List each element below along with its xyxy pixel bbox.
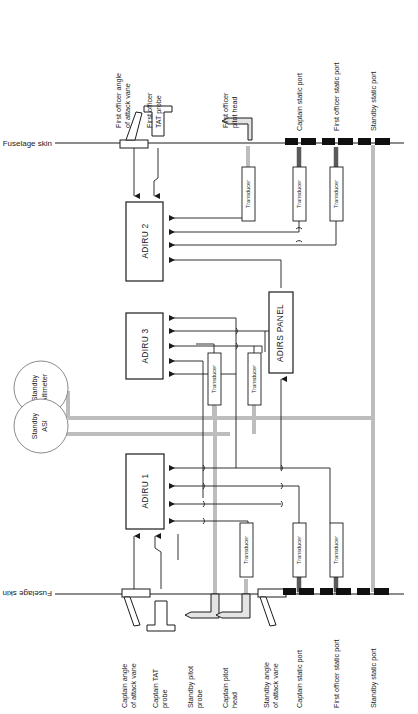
standby-static-port-top-label: Standby static port [369, 71, 378, 131]
unit-adiru3-label: ADIRU 3 [140, 328, 150, 363]
transducer-fo-static-top-label: Transducer [333, 180, 339, 208]
transducer-fo-static-bottom-label: Transducer [333, 536, 339, 564]
capt-tat-probe-label-line2: probe [160, 690, 169, 708]
standby-asi-label-line1: Standby [30, 412, 39, 439]
capt-static-port-top-left-pad [285, 138, 298, 145]
standby-static-port-bottom-label: Standby static port [369, 648, 378, 708]
transducer-mid-left-label: Transducer [211, 365, 217, 393]
fo-pitot-head-label-line2: pitot head [230, 96, 239, 128]
transducer-fo-pitot: Transducer [242, 167, 255, 221]
unit-adiru1-label: ADIRU 1 [140, 473, 150, 508]
capt-pitot-head-label-line1: Captain pitot [221, 668, 230, 708]
unit-adiru2-label: ADIRU 2 [140, 223, 150, 258]
capt-tat-probe-label-line1: Captain TAT [151, 668, 160, 708]
standby-asi: Standby ASI [14, 399, 68, 453]
transducer-capt-static-top: Transducer [293, 167, 306, 221]
unit-adirs-panel: ADIRS PANEL [269, 292, 293, 373]
capt-static-port-bottom-label: Captain static port [295, 650, 304, 708]
standby-altimeter-label-line1: Standby [30, 374, 39, 401]
fo-aoa-vane-label-line2: of attack vane [123, 83, 132, 128]
standby-static-port-top-right-pad [375, 138, 390, 145]
standby-pitot-probe-label-line1: Standby pitot [186, 666, 195, 708]
fo-static-port-bottom-label: First officer static port [332, 639, 341, 708]
fo-static-port-top-label: First officer static port [332, 62, 341, 131]
standby-aoa-vane-label-line2: of attack vane [271, 663, 280, 708]
fo-static-port-bottom-left-pad [320, 588, 333, 595]
standby-aoa-vane-base [258, 589, 286, 597]
transducer-capt-static-bottom: Transducer [293, 523, 306, 577]
standby-asi-label-line2: ASI [40, 420, 49, 432]
transducer-fo-static-bottom: Transducer [330, 523, 343, 577]
fo-static-port-top-right-pad [338, 138, 353, 145]
transducer-capt-pitot-bottom: Transducer [240, 523, 253, 577]
unit-adiru2: ADIRU 2 [126, 202, 163, 281]
unit-adiru1: ADIRU 1 [126, 454, 164, 529]
transducer-capt-pitot-bottom-label: Transducer [243, 536, 249, 564]
fo-tat-probe-label-line2: TAT probe [154, 95, 163, 128]
unit-adiru3: ADIRU 3 [126, 313, 163, 379]
standby-pitot-probe-label-line2: probe [195, 690, 204, 708]
transducer-capt-static-bottom-label: Transducer [296, 536, 302, 564]
standby-aoa-vane-label-line1: Standby angle [262, 662, 271, 708]
transducer-fo-pitot-label: Transducer [245, 180, 251, 208]
capt-static-port-bottom-right-pad [299, 588, 314, 595]
fo-aoa-vane-label-line1: First officer angle [114, 73, 123, 128]
transducer-capt-static-top-label: Transducer [296, 180, 302, 208]
fo-tat-probe-label-line1: First officer [145, 92, 154, 128]
capt-pitot-head-label-line2: head [230, 692, 239, 708]
fo-aoa-vane-base [120, 140, 148, 148]
standby-static-port-bottom-right-pad [374, 588, 389, 595]
unit-adirs-panel-label: ADIRS PANEL [275, 304, 285, 362]
transducer-mid-left: Transducer [208, 353, 221, 405]
capt-aoa-vane-base [122, 589, 150, 597]
adirs-schematic: Fuselage skin Fuselage skin [0, 0, 418, 714]
transducer-mid-right-label: Transducer [251, 365, 257, 393]
capt-aoa-vane-label-line1: Captain angle [120, 664, 129, 708]
capt-static-port-top-right-pad [301, 138, 316, 145]
fo-pitot-head-label-line1: First officer [221, 92, 230, 128]
fuselage-skin-bottom-label: Fuselage skin [3, 589, 52, 598]
fo-static-port-top-left-pad [322, 138, 335, 145]
standby-static-port-top-left-pad [358, 138, 371, 145]
capt-aoa-vane-label-line2: of attack vane [129, 663, 138, 708]
capt-static-port-bottom-left-pad [283, 588, 296, 595]
fuselage-skin-top-label: Fuselage skin [3, 139, 52, 148]
fo-static-port-bottom-right-pad [336, 588, 351, 595]
standby-instruments: Standby Altimeter Standby ASI [14, 361, 68, 453]
standby-altimeter-label-line2: Altimeter [40, 373, 49, 402]
transducer-mid-right: Transducer [248, 353, 261, 405]
standby-static-port-bottom-left-pad [357, 588, 370, 595]
capt-static-port-top-label: Captain static port [295, 73, 304, 131]
transducer-fo-static-top: Transducer [330, 167, 343, 221]
diagram-page: Fuselage skin Fuselage skin [0, 0, 418, 714]
